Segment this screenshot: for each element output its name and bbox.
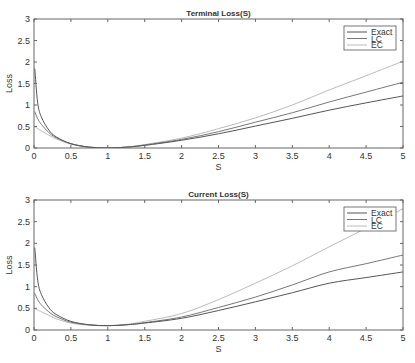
- x-tick-label: 5: [400, 151, 405, 161]
- x-tick-label: 2: [179, 333, 184, 343]
- x-axis-label: S: [215, 162, 221, 172]
- x-tick-label: 2.5: [212, 151, 225, 161]
- y-tick-label: 3: [25, 195, 30, 205]
- x-tick-label: 3.5: [286, 151, 299, 161]
- y-tick-label: 1: [25, 282, 30, 292]
- series-exact-line: [35, 68, 403, 148]
- x-tick-label: 0.5: [65, 333, 78, 343]
- x-tick-label: 0.5: [65, 151, 78, 161]
- x-tick-label: 3: [253, 151, 258, 161]
- x-tick-label: 1: [105, 151, 110, 161]
- x-tick-label: 0: [31, 333, 36, 343]
- y-axis-label: Loss: [4, 73, 14, 93]
- series-lc-line: [35, 255, 403, 326]
- legend: ExactLCEC: [344, 207, 396, 231]
- y-tick-label: 0.5: [17, 122, 30, 132]
- series-ec-line: [35, 61, 403, 148]
- series-lc-line: [35, 82, 403, 148]
- y-tick-label: 2: [25, 57, 30, 67]
- y-tick-label: 1.5: [17, 79, 30, 89]
- x-tick-label: 4.5: [360, 151, 373, 161]
- current-loss-plot: 00.511.522.533.544.5500.511.522.53Curren…: [4, 190, 406, 354]
- y-tick-label: 2.5: [17, 36, 30, 46]
- series-lines: [35, 61, 403, 148]
- x-tick-label: 4: [327, 151, 332, 161]
- y-tick-label: 2.5: [17, 217, 30, 227]
- x-axis-label: S: [215, 344, 221, 354]
- terminal-loss-plot: 00.511.522.533.544.5500.511.522.53Termin…: [4, 9, 406, 172]
- y-axis-label: Loss: [4, 255, 14, 275]
- x-tick-label: 3.5: [286, 333, 299, 343]
- y-tick-label: 1: [25, 100, 30, 110]
- x-tick-label: 0: [31, 151, 36, 161]
- y-tick-label: 1.5: [17, 260, 30, 270]
- x-tick-label: 2: [179, 151, 184, 161]
- legend-label-ec: EC: [371, 40, 383, 50]
- chart-title: Current Loss(S): [188, 190, 249, 199]
- x-tick-label: 1: [105, 333, 110, 343]
- legend: ExactLCEC: [344, 26, 396, 50]
- x-tick-label: 5: [400, 333, 405, 343]
- y-tick-label: 0: [25, 143, 30, 153]
- x-tick-label: 1.5: [138, 333, 151, 343]
- x-tick-label: 4.5: [360, 333, 373, 343]
- figure: 00.511.522.533.544.5500.511.522.53Termin…: [0, 0, 415, 363]
- y-tick-label: 0: [25, 325, 30, 335]
- x-tick-label: 2.5: [212, 333, 225, 343]
- y-tick-label: 0.5: [17, 303, 30, 313]
- y-tick-label: 3: [25, 14, 30, 24]
- x-tick-label: 1.5: [138, 151, 151, 161]
- series-exact-line: [35, 248, 403, 326]
- chart-title: Terminal Loss(S): [186, 9, 251, 18]
- y-tick-label: 2: [25, 238, 30, 248]
- x-tick-label: 3: [253, 333, 258, 343]
- legend-label-ec: EC: [371, 221, 383, 231]
- x-tick-label: 4: [327, 333, 332, 343]
